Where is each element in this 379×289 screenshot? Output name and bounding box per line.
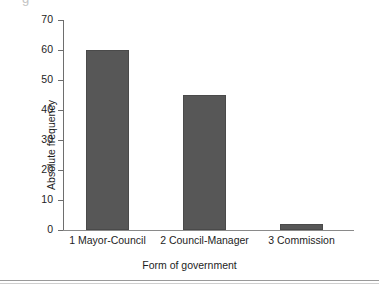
x-category-label: 1 Mayor-Council <box>69 234 145 246</box>
bar <box>183 95 226 230</box>
x-axis-title: Form of government <box>0 259 379 271</box>
y-tick-label: 10 <box>41 193 53 205</box>
y-tick-label: 40 <box>41 103 53 115</box>
page-divider-rule <box>0 280 379 281</box>
page-divider-rule-secondary <box>0 283 379 284</box>
y-tick-label: 0 <box>47 223 53 235</box>
y-tick-label: 60 <box>41 43 53 55</box>
x-axis-line <box>63 230 354 231</box>
y-tick-label: 70 <box>41 13 53 25</box>
chart-page: g Absolute frequency 010203040506070 1 M… <box>0 0 379 289</box>
y-tick-mark <box>58 230 63 231</box>
clipped-text-artifact: g <box>22 0 30 6</box>
y-tick-label: 50 <box>41 73 53 85</box>
x-category-label: 3 Commission <box>268 234 335 246</box>
plot-area <box>63 20 354 230</box>
bar <box>86 50 129 230</box>
x-category-label: 2 Council-Manager <box>160 234 249 246</box>
y-tick-label: 20 <box>41 163 53 175</box>
y-tick-label: 30 <box>41 133 53 145</box>
bar <box>280 224 323 230</box>
